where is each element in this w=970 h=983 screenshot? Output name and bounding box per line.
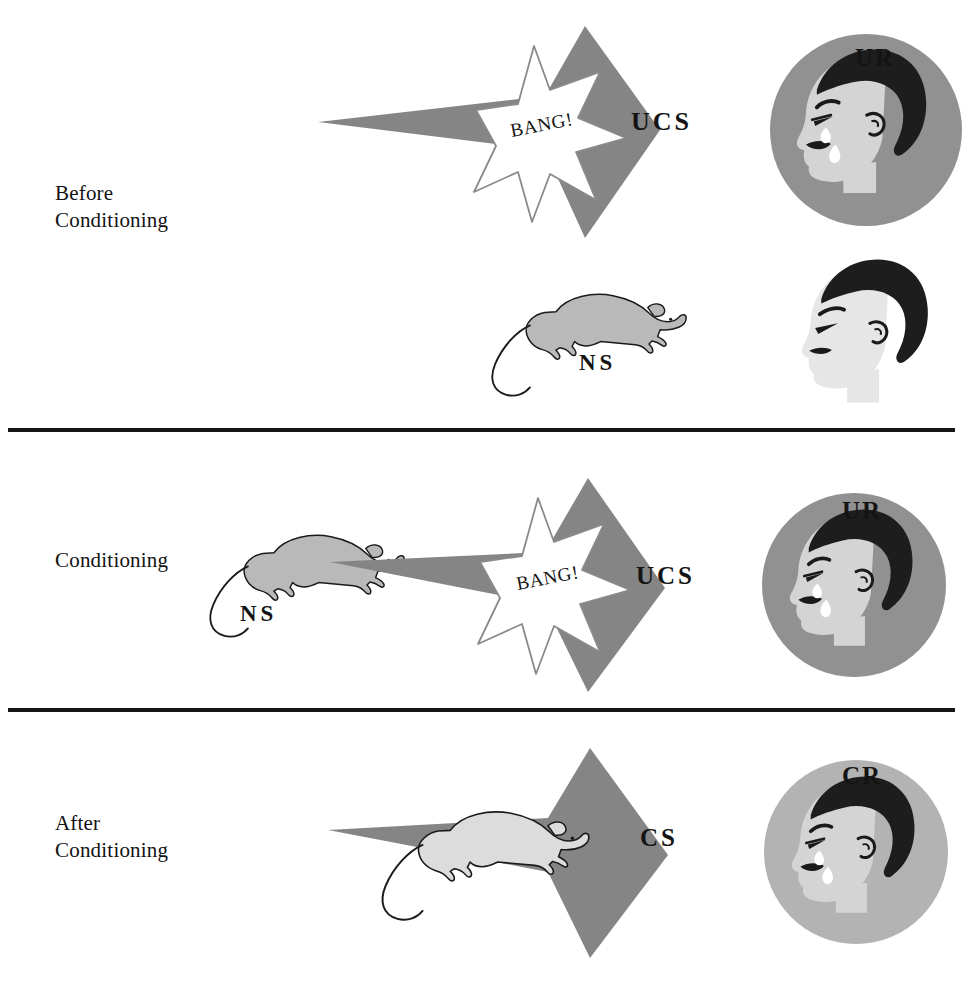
response-label-cr-row3: CR — [842, 762, 882, 790]
row-label-conditioning: Conditioning — [55, 547, 168, 574]
arrow-label-ucs-row2: UCS — [636, 562, 695, 590]
arrow-label-cs-row3: CS — [640, 824, 678, 852]
row-label-before-conditioning: Before Conditioning — [55, 180, 168, 234]
arrow-label-ucs-row1: UCS — [631, 107, 692, 137]
row1-graphics — [318, 26, 962, 402]
response-label-ur-row1: UR — [855, 44, 895, 72]
row-label-after-conditioning: After Conditioning — [55, 810, 168, 864]
row2-graphics — [210, 478, 946, 692]
section-divider-2 — [8, 708, 955, 712]
diagram-canvas: Before Conditioning Conditioning After C… — [0, 0, 970, 983]
burst-label-row1: BANG! — [508, 108, 574, 142]
neutral-stimulus-label-row1: NS — [579, 350, 616, 376]
neutral-stimulus-label-row2: NS — [240, 601, 277, 627]
scan-artifact-text — [96, 0, 316, 9]
section-divider-1 — [8, 428, 955, 432]
burst-label-row2: BANG! — [514, 561, 580, 595]
response-label-ur-row2: UR — [842, 497, 882, 525]
